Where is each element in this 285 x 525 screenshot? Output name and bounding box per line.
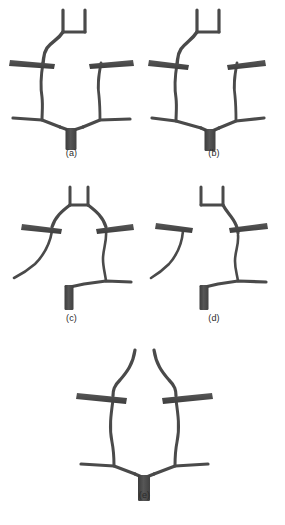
figure-panel-a: (a) xyxy=(0,0,143,175)
vessel-right-main xyxy=(175,400,179,466)
vessel-ascending-right xyxy=(154,350,176,396)
vessel-stepped-trunk xyxy=(65,285,74,310)
vessel-lower-right-collector xyxy=(219,118,264,128)
figure-panel-b: (b) xyxy=(143,0,285,175)
vessel-isolated-curving-branch xyxy=(151,231,183,278)
vessel-left-main xyxy=(175,64,177,121)
figure-panel-e: (e) xyxy=(57,340,232,525)
vessel-lower-right-collector xyxy=(83,119,130,127)
vessel-lateral-bar-left xyxy=(76,393,127,404)
vessel-lower-right-collector xyxy=(154,464,208,474)
vessel-left-main xyxy=(110,400,114,466)
panel-label-c: (c) xyxy=(0,313,143,324)
vessel-lateral-bar-left xyxy=(21,224,62,234)
panel-label-d: (d) xyxy=(143,313,285,324)
vessel-lower-left-collector xyxy=(13,118,60,127)
vessel-stepped-horizontal xyxy=(205,281,266,287)
vessel-upper-right-limb xyxy=(88,205,106,227)
vessel-lateral-bar-right xyxy=(227,60,266,70)
figure-panel-d: (d) xyxy=(143,175,285,340)
vessel-common-trunk xyxy=(66,128,77,150)
vessel-stepped-trunk xyxy=(200,285,209,310)
panel-label-a: (a) xyxy=(0,148,143,159)
vessel-lateral-bar-right xyxy=(96,224,134,234)
vessel-upper-left-segment xyxy=(43,32,63,63)
vessel-lower-left-collector xyxy=(81,464,135,474)
vessel-ascending-left xyxy=(113,350,135,396)
vessel-stepped-horizontal xyxy=(70,281,131,287)
vessel-right-main xyxy=(98,63,101,120)
vessel-lower-left-collector xyxy=(152,118,201,128)
vessel-upper-left-segment xyxy=(177,32,197,64)
vessel-lateral-bar-left xyxy=(9,60,55,69)
vessel-right-descending xyxy=(103,231,106,281)
vessel-free-curving-branch xyxy=(14,231,52,278)
vessel-left-main xyxy=(41,63,43,120)
panel-label-e: (e) xyxy=(57,490,232,501)
vessel-lateral-bar-right xyxy=(89,60,134,69)
figure-root: (a) xyxy=(0,0,285,525)
vessel-right-main xyxy=(234,63,237,121)
figure-panel-c: (c) xyxy=(0,175,143,340)
vessel-lateral-bar-right xyxy=(162,393,213,404)
vessel-upper-left-limb xyxy=(52,205,70,227)
vessel-lateral-bar-left xyxy=(148,60,189,70)
vessel-lateral-bar-left xyxy=(155,223,193,233)
panel-label-b: (b) xyxy=(143,148,285,159)
vessel-right-descending xyxy=(235,235,238,281)
